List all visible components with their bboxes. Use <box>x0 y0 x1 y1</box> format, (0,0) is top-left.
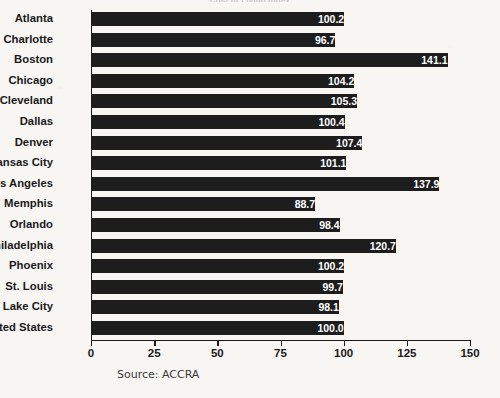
category-label: Kansas City <box>0 155 53 170</box>
category-label: Salt Lake City <box>0 299 53 314</box>
bar-value-label: 100.0 <box>91 321 348 335</box>
x-axis-tick-label: 0 <box>88 347 94 359</box>
category-label: Chicago <box>8 73 53 88</box>
x-axis-tick-label: 75 <box>274 347 287 359</box>
bar-value-label: 100.2 <box>91 259 348 273</box>
bar-row: Cleveland105.3 <box>91 94 470 108</box>
x-axis-tick <box>91 341 92 346</box>
category-label: Charlotte <box>3 32 53 47</box>
bar-value-label: 99.7 <box>91 280 347 294</box>
category-label: Dallas <box>20 114 53 129</box>
category-label: Phoenix <box>9 258 53 273</box>
x-axis-tick <box>217 341 218 346</box>
bar-value-label: 98.4 <box>91 218 344 232</box>
category-label: Orlando <box>10 217 53 232</box>
bar-row: Phoenix100.2 <box>91 259 470 273</box>
bar-row: Memphis88.7 <box>91 197 470 211</box>
x-axis-tick <box>407 341 408 346</box>
bar-value-label: 141.1 <box>91 53 452 67</box>
bar-value-label: 107.4 <box>91 136 366 150</box>
bar-value-label: 100.4 <box>91 115 349 129</box>
bar-value-label: 100.2 <box>91 12 348 26</box>
bar-value-label: 101.1 <box>91 156 350 170</box>
bar-value-label: 137.9 <box>91 177 443 191</box>
bar-row: Charlotte96.7 <box>91 33 470 47</box>
x-axis-tick <box>154 341 155 346</box>
source-note: Source: ACCRA <box>117 368 199 381</box>
bar-row: United States100.0 <box>91 321 470 335</box>
category-label: Los Angeles <box>0 176 53 191</box>
category-label: Denver <box>15 135 53 150</box>
x-axis-tick-label: 100 <box>334 347 353 359</box>
x-axis-tick-label: 150 <box>460 347 479 359</box>
bar-row: Orlando98.4 <box>91 218 470 232</box>
bar-row: Dallas100.4 <box>91 115 470 129</box>
category-label: Philadelphia <box>0 238 53 253</box>
x-axis-tick-label: 125 <box>397 347 416 359</box>
bar-value-label: 88.7 <box>91 197 319 211</box>
bar-row: Denver107.4 <box>91 136 470 150</box>
x-axis-tick-label: 50 <box>211 347 224 359</box>
category-label: United States <box>0 320 53 335</box>
x-axis-tick-label: 25 <box>148 347 161 359</box>
category-label: St. Louis <box>5 279 53 294</box>
bar-value-label: 120.7 <box>91 239 400 253</box>
bar-row: Salt Lake City98.1 <box>91 300 470 314</box>
bar-row: Chicago104.2 <box>91 74 470 88</box>
category-label: Atlanta <box>15 11 53 26</box>
chart-title-fragment: Cost of Living Index <box>0 0 500 2</box>
bar-row: Philadelphia120.7 <box>91 239 470 253</box>
bar-row: Boston141.1 <box>91 53 470 67</box>
bar-value-label: 105.3 <box>91 94 361 108</box>
category-label: Memphis <box>4 196 53 211</box>
x-axis-tick <box>344 341 345 346</box>
plot-area: Atlanta100.2Charlotte96.7Boston141.1Chic… <box>91 10 470 340</box>
category-label: Cleveland <box>0 93 53 108</box>
bar-row: Atlanta100.2 <box>91 12 470 26</box>
bar-value-label: 104.2 <box>91 74 358 88</box>
bar-row: Kansas City101.1 <box>91 156 470 170</box>
x-axis-tick <box>470 341 471 346</box>
bar-value-label: 96.7 <box>91 33 339 47</box>
x-axis-tick <box>281 341 282 346</box>
bar-row: Los Angeles137.9 <box>91 177 470 191</box>
bar-chart: Cost of Living Index 0255075100125150 At… <box>0 0 500 398</box>
category-label: Boston <box>14 52 53 67</box>
bar-value-label: 98.1 <box>91 300 343 314</box>
bar-row: St. Louis99.7 <box>91 280 470 294</box>
